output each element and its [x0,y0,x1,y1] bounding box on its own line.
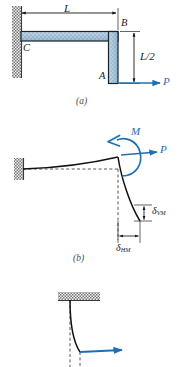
vertical-member-ba [109,32,119,84]
label-delta-vm: δVM [152,206,166,217]
caption-panel-a: (a) [76,97,87,107]
dimension-L-half [120,32,140,84]
label-load-P-b: P [160,144,167,155]
dimension-delta-vm [134,205,152,221]
deflected-shape [23,157,140,221]
dimension-delta-hm [118,221,140,243]
load-arrow-P-b [121,152,157,155]
wall-support-c [12,6,22,78]
label-moment-M: M [131,126,140,137]
label-dim-L: L [64,3,70,14]
horizontal-member-cb [21,32,118,42]
load-arrow-c [80,350,122,352]
caption-panel-b: (b) [73,254,84,264]
undeflected-axis [23,169,118,240]
label-dim-L-half: L/2 [140,51,155,62]
moment-arrow-M [108,136,141,177]
label-point-A: A [99,71,105,82]
label-load-P: P [163,76,170,87]
ceiling-support-c [58,292,100,301]
delta-hm-subscript: HM [121,246,131,253]
label-point-C: C [23,43,30,54]
panel-c [58,292,122,367]
deflected-shape-c [70,300,80,352]
panel-b [14,136,157,244]
undeflected-axis-c [70,300,80,367]
delta-vm-subscript: VM [157,209,166,216]
label-delta-hm: δHM [116,243,130,254]
panel-a [12,6,160,84]
wall-support-b [14,158,24,180]
label-point-B: B [121,18,127,29]
